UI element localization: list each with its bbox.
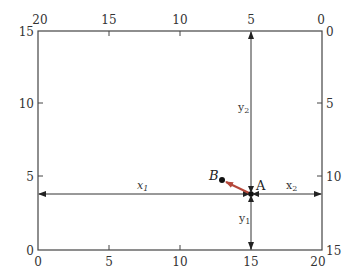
top-tick-5: 5	[247, 13, 255, 27]
y1-label: y1	[238, 212, 250, 226]
right-tick-5: 5	[326, 97, 334, 111]
bounding-box	[38, 31, 322, 250]
bottom-tick-5: 5	[105, 255, 113, 269]
left-tick-10: 10	[19, 97, 34, 111]
x2-label: x2	[286, 179, 297, 193]
right-tick-15: 15	[326, 244, 341, 258]
left-tick-0: 0	[26, 244, 34, 258]
arrow-A-to-B	[226, 182, 249, 193]
diagram-canvas: 0 5 10 15 20 20 15 10 5 0 0 5 10 15 15 1…	[0, 0, 356, 278]
y2-label: y2	[237, 101, 249, 115]
point-B-label: B	[208, 168, 219, 183]
left-tick-15: 15	[19, 25, 34, 39]
right-tick-10: 10	[326, 170, 341, 184]
top-tick-10: 10	[172, 13, 187, 27]
top-tick-15: 15	[101, 13, 116, 27]
right-tick-0: 0	[326, 25, 334, 39]
bottom-tick-0: 0	[34, 255, 42, 269]
point-A-label: A	[255, 178, 266, 193]
bottom-tick-15: 15	[243, 255, 258, 269]
top-axis	[109, 31, 180, 36]
right-axis	[317, 103, 322, 176]
bottom-axis	[109, 245, 251, 250]
bottom-tick-10: 10	[172, 255, 187, 269]
top-tick-0: 0	[317, 13, 325, 27]
bottom-tick-20: 20	[310, 255, 325, 269]
point-B	[219, 177, 225, 183]
x1-label: x1	[137, 179, 148, 193]
top-tick-20: 20	[32, 13, 47, 27]
point-A	[248, 191, 254, 197]
left-tick-5: 5	[26, 170, 34, 184]
left-axis	[38, 103, 43, 176]
